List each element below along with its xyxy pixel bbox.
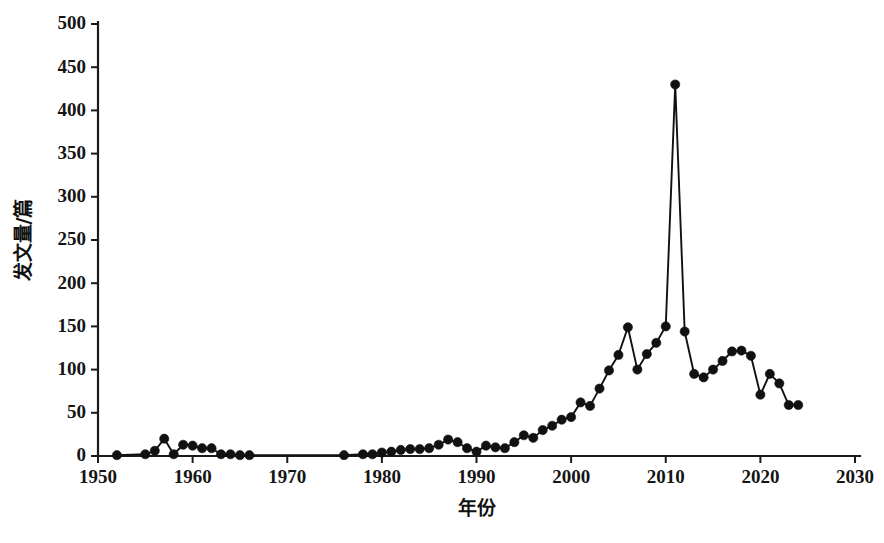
data-point xyxy=(557,415,566,424)
chart-container: 050100150200250300350400450500 195019601… xyxy=(0,0,884,543)
data-point xyxy=(652,338,661,347)
data-point xyxy=(585,401,594,410)
x-axis-title: 年份 xyxy=(458,497,497,519)
data-point xyxy=(387,447,396,456)
data-point xyxy=(680,327,689,336)
data-point xyxy=(794,400,803,409)
y-tick-label: 0 xyxy=(77,444,87,465)
data-point xyxy=(519,431,528,440)
data-point xyxy=(548,421,557,430)
data-point xyxy=(141,450,150,459)
data-point xyxy=(434,440,443,449)
data-point xyxy=(661,322,670,331)
data-point xyxy=(425,444,434,453)
data-point xyxy=(160,434,169,443)
x-tick-label: 2030 xyxy=(836,466,874,487)
y-tick-label: 350 xyxy=(58,142,87,163)
y-tick-label: 250 xyxy=(58,228,87,249)
data-point xyxy=(339,451,348,460)
data-point xyxy=(188,441,197,450)
data-point xyxy=(235,451,244,460)
x-tick-label: 1950 xyxy=(79,466,117,487)
data-point xyxy=(642,349,651,358)
data-point xyxy=(500,444,509,453)
data-point xyxy=(207,444,216,453)
data-point xyxy=(406,444,415,453)
data-point xyxy=(491,443,500,452)
y-tick-label: 300 xyxy=(58,185,87,206)
data-point xyxy=(169,450,178,459)
data-point xyxy=(462,444,471,453)
data-point xyxy=(377,448,386,457)
data-point xyxy=(604,366,613,375)
data-point xyxy=(358,450,367,459)
data-point xyxy=(538,425,547,434)
x-tick-label: 1980 xyxy=(363,466,401,487)
y-tick-label: 50 xyxy=(67,401,86,422)
y-tick-label: 400 xyxy=(58,99,87,120)
data-point xyxy=(633,365,642,374)
y-axis-title: 发文量/篇 xyxy=(12,199,34,283)
x-tick-label: 2000 xyxy=(552,466,590,487)
y-axis-ticks: 050100150200250300350400450500 xyxy=(58,12,99,465)
data-point xyxy=(481,441,490,450)
data-point xyxy=(415,444,424,453)
data-point-markers xyxy=(112,80,803,460)
data-point xyxy=(708,365,717,374)
data-point xyxy=(727,347,736,356)
data-point xyxy=(510,438,519,447)
y-tick-label: 200 xyxy=(58,272,87,293)
data-point xyxy=(756,390,765,399)
data-point xyxy=(453,438,462,447)
data-point xyxy=(737,346,746,355)
data-point xyxy=(472,447,481,456)
data-point xyxy=(245,451,254,460)
x-tick-label: 1970 xyxy=(268,466,306,487)
data-point xyxy=(623,323,632,332)
data-point xyxy=(226,450,235,459)
data-point xyxy=(718,356,727,365)
x-tick-label: 1960 xyxy=(174,466,212,487)
data-point xyxy=(671,80,680,89)
data-point xyxy=(690,369,699,378)
x-tick-label: 2010 xyxy=(647,466,685,487)
data-point xyxy=(529,433,538,442)
data-point xyxy=(614,350,623,359)
x-tick-label: 1990 xyxy=(458,466,496,487)
y-tick-label: 100 xyxy=(58,358,87,379)
data-point xyxy=(197,444,206,453)
y-tick-label: 450 xyxy=(58,56,87,77)
y-tick-label: 500 xyxy=(58,12,87,33)
data-point xyxy=(396,445,405,454)
data-series-line xyxy=(117,84,798,455)
x-tick-label: 2020 xyxy=(741,466,779,487)
data-point xyxy=(775,379,784,388)
data-point xyxy=(765,369,774,378)
data-point xyxy=(179,440,188,449)
data-point xyxy=(567,413,576,422)
data-point xyxy=(746,351,755,360)
x-axis-ticks: 195019601970198019902000201020202030 xyxy=(79,456,874,487)
data-point xyxy=(368,450,377,459)
data-point xyxy=(444,435,453,444)
y-tick-label: 150 xyxy=(58,315,87,336)
data-point xyxy=(216,450,225,459)
data-point xyxy=(595,384,604,393)
data-point xyxy=(150,446,159,455)
line-chart: 050100150200250300350400450500 195019601… xyxy=(0,0,884,543)
data-point xyxy=(699,373,708,382)
data-point xyxy=(784,400,793,409)
data-point xyxy=(576,398,585,407)
data-point xyxy=(112,451,121,460)
